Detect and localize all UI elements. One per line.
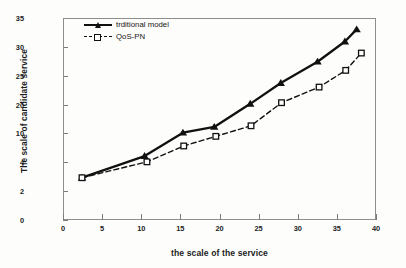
x-tick-mark [102, 214, 103, 220]
chart-figure: The scale of candidate service 024102025… [0, 0, 406, 268]
data-point-marker [352, 25, 360, 32]
x-tick-mark [141, 214, 142, 220]
x-tick-label: 35 [325, 224, 349, 233]
x-tick-label: 20 [208, 224, 232, 233]
x-tick-label: 10 [129, 224, 153, 233]
data-point-marker [181, 143, 187, 149]
x-tick-mark [376, 214, 377, 220]
x-tick-mark [298, 214, 299, 220]
data-point-marker [316, 84, 322, 90]
y-tick-label: 4 [0, 158, 24, 167]
plot-area [63, 18, 376, 220]
x-tick-label: 40 [364, 224, 388, 233]
x-tick-mark [259, 214, 260, 220]
square-marker-icon [94, 34, 101, 41]
data-point-marker [248, 123, 254, 129]
data-point-marker [343, 68, 349, 74]
x-tick-mark [180, 214, 181, 220]
series-line-1 [82, 29, 357, 177]
chart-legend: trditional model QoS-PN [84, 19, 169, 43]
legend-item-qos-pn: QoS-PN [84, 31, 169, 42]
y-tick-label: 2 [0, 187, 24, 196]
x-tick-label: 25 [247, 224, 271, 233]
series-layer [64, 19, 377, 221]
y-tick-label: 30 [0, 42, 24, 51]
data-point-marker [79, 175, 85, 181]
data-point-marker [279, 100, 285, 106]
data-point-marker [144, 159, 150, 165]
legend-key-solid-triangle [84, 20, 112, 30]
x-tick-label: 0 [51, 224, 75, 233]
data-point-marker [213, 134, 219, 140]
legend-label: trditional model [116, 20, 169, 29]
triangle-marker-icon [95, 22, 101, 28]
y-tick-label: 25 [0, 71, 24, 80]
y-tick-label: 0 [0, 216, 24, 225]
x-tick-mark [220, 214, 221, 220]
legend-key-dashed-square [84, 32, 112, 42]
x-tick-label: 30 [286, 224, 310, 233]
y-tick-label: 10 [0, 129, 24, 138]
x-axis-title: the scale of the service [63, 248, 376, 258]
legend-item-traditional-model: trditional model [84, 19, 169, 30]
y-tick-label: 35 [0, 14, 24, 23]
legend-label: QoS-PN [116, 32, 145, 41]
data-point-marker [359, 50, 365, 56]
x-tick-mark [63, 214, 64, 220]
series-line-2 [82, 53, 361, 178]
x-tick-label: 5 [90, 224, 114, 233]
x-tick-label: 15 [168, 224, 192, 233]
x-tick-mark [337, 214, 338, 220]
y-tick-label: 20 [0, 100, 24, 109]
